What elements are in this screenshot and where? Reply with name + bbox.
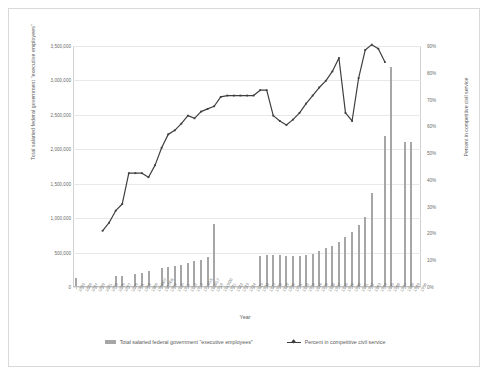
y-tick-label-left: 2,000,000: [11, 147, 71, 152]
y-tick-label-left: 3,500,000: [11, 44, 71, 49]
line-marker: [371, 44, 373, 46]
y-tick-label-right: 50%: [427, 151, 436, 156]
line-marker: [102, 230, 104, 232]
line-series: [73, 46, 421, 287]
line-marker: [180, 123, 182, 125]
line-marker: [364, 49, 366, 51]
x-axis-title: Year: [9, 314, 481, 320]
y-tick-label-right: 90%: [427, 44, 436, 49]
line-marker: [279, 120, 281, 122]
line-swatch-icon: [287, 342, 301, 343]
y-tick-label-right: 10%: [427, 258, 436, 263]
y-tick-label-right: 60%: [427, 124, 436, 129]
line-marker: [207, 108, 209, 110]
line-marker: [108, 222, 110, 224]
y-tick-label-left: 2,500,000: [11, 112, 71, 117]
x-axis-labels: 1883188518871889189118931895189718991901…: [73, 289, 421, 315]
line-marker: [174, 129, 176, 131]
legend-label-line: Percent in competitive civil service: [305, 339, 386, 345]
y-tick-label-right: 20%: [427, 231, 436, 236]
line-marker: [148, 176, 150, 178]
line-marker: [167, 133, 169, 135]
line-marker: [345, 112, 347, 114]
line-marker: [233, 95, 235, 97]
line-marker: [286, 124, 288, 126]
line-marker: [358, 77, 360, 79]
y-tick-label-left: 500,000: [11, 250, 71, 255]
y-tick-label-right: 0%: [427, 285, 434, 290]
line-marker: [312, 95, 314, 97]
y-tick-label-right: 70%: [427, 97, 436, 102]
line-marker: [259, 89, 261, 91]
line-marker: [246, 95, 248, 97]
y-tick-label-left: 1,000,000: [11, 216, 71, 221]
line-marker: [187, 115, 189, 117]
y-tick-label-right: 80%: [427, 70, 436, 75]
y-tick-label-right: 30%: [427, 204, 436, 209]
y-axis-labels-right: 90%80%70%60%50%40%30%20%10%0%: [423, 46, 463, 287]
line-marker: [305, 103, 307, 105]
legend-label-bars: Total salaried federal government "execu…: [120, 339, 253, 345]
line-path: [103, 45, 385, 231]
line-marker: [220, 96, 222, 98]
line-marker: [141, 172, 143, 174]
line-marker: [318, 87, 320, 89]
line-marker: [115, 210, 117, 212]
line-marker: [194, 117, 196, 119]
line-marker: [240, 95, 242, 97]
line-marker: [338, 57, 340, 59]
line-marker: [226, 95, 228, 97]
legend-item-line: Percent in competitive civil service: [287, 339, 386, 345]
line-marker: [134, 172, 136, 174]
line-marker: [213, 105, 215, 107]
y-tick-label-left: 0: [11, 285, 71, 290]
bar-swatch-icon: [105, 340, 116, 344]
y-tick-label-left: 3,000,000: [11, 78, 71, 83]
chart-legend: Total salaried federal government "execu…: [9, 339, 481, 345]
line-marker: [253, 95, 255, 97]
y-axis-title-right: Percent in competitive civil service: [463, 32, 469, 202]
legend-item-bars: Total salaried federal government "execu…: [105, 339, 253, 345]
line-marker: [272, 115, 274, 117]
y-axis-labels-left: 3,500,0003,000,0002,500,0002,000,0001,50…: [7, 46, 71, 287]
line-marker: [200, 111, 202, 113]
line-marker: [351, 120, 353, 122]
line-marker: [292, 119, 294, 121]
line-marker: [384, 61, 386, 63]
chart-container: Total salaried federal government "execu…: [8, 8, 480, 367]
line-marker: [325, 80, 327, 82]
line-marker: [299, 112, 301, 114]
line-marker: [266, 89, 268, 91]
line-marker: [154, 164, 156, 166]
plot-area: [73, 46, 421, 287]
y-tick-label-right: 40%: [427, 177, 436, 182]
line-marker: [377, 48, 379, 50]
y-tick-label-left: 1,500,000: [11, 181, 71, 186]
line-marker: [331, 71, 333, 73]
line-marker: [161, 147, 163, 149]
line-marker: [128, 172, 130, 174]
line-marker: [121, 203, 123, 205]
